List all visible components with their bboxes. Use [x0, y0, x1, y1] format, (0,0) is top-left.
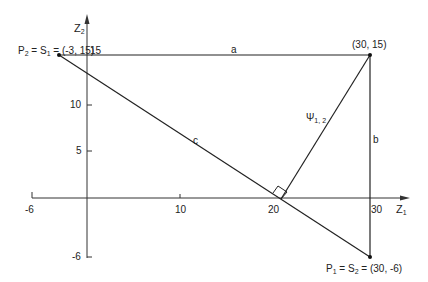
segment-a-label: a — [231, 45, 237, 55]
segment-psi — [281, 55, 370, 199]
segment-c-label: c — [193, 136, 198, 146]
x-tick-label: 20 — [268, 205, 279, 215]
segment-c — [59, 55, 370, 257]
z1-arrow-icon — [400, 196, 410, 201]
z1-axis-label: Z1 — [396, 204, 407, 215]
point-p1 — [368, 255, 372, 259]
point-corner-label: (30, 15) — [352, 40, 386, 50]
point-p2-label: P2 = S1 = (-3, 15) — [18, 46, 94, 56]
y-tick-label: 5 — [76, 146, 82, 156]
segment-psi-label: Ψ1, 2 — [306, 113, 326, 123]
z2-arrow-icon — [85, 14, 90, 24]
y-tick-label: -6 — [72, 252, 81, 262]
y-tick-label: 10 — [70, 100, 81, 110]
x-tick-label: 30 — [371, 205, 382, 215]
point-corner — [368, 53, 372, 57]
x-tick-label: 10 — [175, 205, 186, 215]
z2-axis-label: Z2 — [74, 23, 85, 34]
x-tick-label: -6 — [25, 205, 34, 215]
segment-b-label: b — [373, 135, 379, 145]
point-p1-label: P1 = S2 = (30, -6) — [326, 264, 402, 274]
